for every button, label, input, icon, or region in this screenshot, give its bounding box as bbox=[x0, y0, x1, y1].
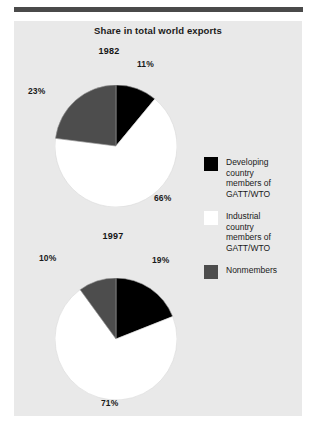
legend-label-nonmembers: Nonmembers bbox=[226, 265, 277, 276]
chart-figure: Share in total world exports 1982 11% 23… bbox=[0, 0, 318, 434]
chart-legend: Developing country members of GATT/WTO I… bbox=[204, 157, 299, 291]
pie-year-label-1997: 1997 bbox=[83, 231, 143, 241]
pie-1982-value-developing: 11% bbox=[137, 59, 154, 69]
legend-item-industrial: Industrial country members of GATT/WTO bbox=[204, 211, 299, 253]
pie-chart-1982 bbox=[55, 85, 177, 207]
pie-year-label-1982: 1982 bbox=[79, 46, 139, 56]
pie-1982-svg bbox=[55, 85, 177, 207]
pie-chart-1997 bbox=[55, 278, 177, 400]
pie-1997-slices bbox=[55, 278, 177, 400]
legend-item-developing: Developing country members of GATT/WTO bbox=[204, 157, 299, 199]
chart-title: Share in total world exports bbox=[14, 25, 302, 36]
pie-1982-value-nonmembers: 23% bbox=[28, 86, 45, 96]
pie-1997-svg bbox=[55, 278, 177, 400]
pie-1982-slices bbox=[55, 85, 177, 207]
legend-item-nonmembers: Nonmembers bbox=[204, 265, 299, 279]
pie-1997-value-developing: 19% bbox=[152, 255, 169, 265]
pie-1997-value-industrial: 71% bbox=[101, 398, 118, 408]
legend-label-industrial: Industrial country members of GATT/WTO bbox=[226, 211, 271, 253]
slice-1982-nonmembers bbox=[55, 85, 116, 146]
top-divider-rule bbox=[14, 7, 303, 12]
pie-1997-value-nonmembers: 10% bbox=[39, 253, 56, 263]
legend-label-developing: Developing country members of GATT/WTO bbox=[226, 157, 271, 199]
pie-1982-value-industrial: 66% bbox=[154, 193, 171, 203]
legend-swatch-developing-icon bbox=[204, 157, 218, 171]
legend-swatch-nonmembers-icon bbox=[204, 265, 218, 279]
legend-swatch-industrial-icon bbox=[204, 211, 218, 225]
